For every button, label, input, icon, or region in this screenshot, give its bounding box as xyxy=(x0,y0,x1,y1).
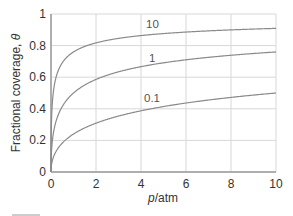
curve-label: 0.1 xyxy=(144,92,160,104)
curve-labels: 1010.1 xyxy=(144,18,160,104)
x-tick-label: 4 xyxy=(138,177,145,191)
y-tick-label: 0.6 xyxy=(29,70,46,84)
x-tick-label: 8 xyxy=(228,177,235,191)
curve-label: 1 xyxy=(149,52,155,64)
y-tick-label: 0.4 xyxy=(29,102,46,116)
y-tick-labels: 00.20.40.60.81 xyxy=(29,7,46,179)
langmuir-isotherm-chart: 0246810 00.20.40.60.81 1010.1 p/atm Frac… xyxy=(0,0,293,216)
x-tick-label: 2 xyxy=(93,177,100,191)
y-tick-label: 0 xyxy=(39,165,46,179)
grid-lines xyxy=(51,14,276,172)
axes xyxy=(51,14,276,172)
curve-label: 10 xyxy=(146,18,159,30)
x-tick-labels: 0246810 xyxy=(48,177,283,191)
y-axis-label: Fractional coverage, θ xyxy=(9,33,23,152)
curve-0.1 xyxy=(51,93,276,172)
x-tick-label: 10 xyxy=(269,177,283,191)
y-tick-label: 0.8 xyxy=(29,39,46,53)
data-curves xyxy=(51,28,276,172)
x-tick-label: 0 xyxy=(48,177,55,191)
x-tick-label: 6 xyxy=(183,177,190,191)
y-tick-label: 0.2 xyxy=(29,133,46,147)
curve-10 xyxy=(51,28,276,172)
y-tick-label: 1 xyxy=(39,7,46,21)
curve-1 xyxy=(51,52,276,172)
x-axis-label: p/atm xyxy=(147,191,178,205)
